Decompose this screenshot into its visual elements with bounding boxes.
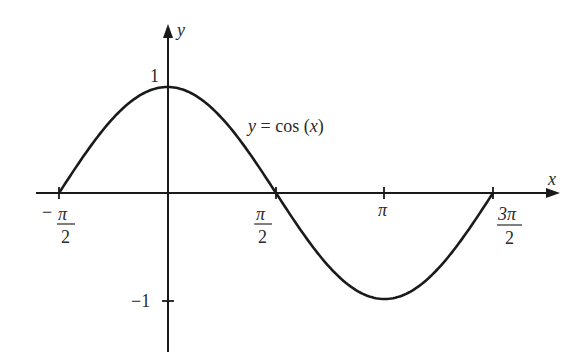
curve-annotation: y = cos (x) [246, 116, 324, 137]
svg-text:2: 2 [258, 227, 267, 247]
svg-text:2: 2 [505, 228, 514, 248]
svg-text:π: π [378, 200, 388, 220]
y-tick-label-neg-one: −1 [131, 291, 150, 311]
svg-text:−: − [42, 202, 52, 222]
x-axis-arrow-icon [546, 188, 560, 198]
svg-text:π: π [58, 204, 68, 224]
y-axis-arrow-icon [163, 24, 173, 38]
cosine-graph: x y 1 −1 − π 2 π 2 π 3π 2 y = cos (x) [0, 0, 588, 364]
x-tick-label-three-half-pi: 3π 2 [497, 204, 522, 248]
x-tick-label-half-pi: π 2 [254, 204, 272, 247]
x-tick-label-pi: π [378, 200, 388, 220]
y-axis-label: y [175, 20, 185, 40]
svg-text:2: 2 [61, 227, 70, 247]
svg-text:π: π [256, 204, 266, 224]
y-tick-label-one: 1 [150, 66, 159, 86]
x-tick-label-neg-half-pi: − π 2 [42, 202, 75, 247]
svg-text:3π: 3π [497, 204, 517, 224]
x-axis-label: x [547, 169, 556, 189]
